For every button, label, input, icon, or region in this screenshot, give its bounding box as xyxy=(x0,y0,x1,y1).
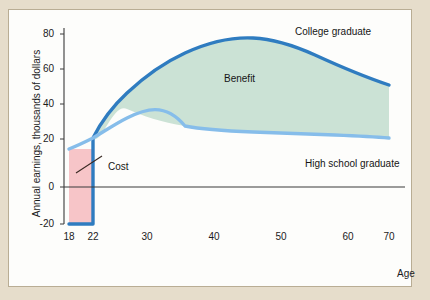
x-tick-label-70: 70 xyxy=(377,231,401,242)
x-tick-label-40: 40 xyxy=(202,231,226,242)
x-tick-label-50: 50 xyxy=(269,231,293,242)
college-graduate-label: College graduate xyxy=(295,26,371,37)
figure-frame: 80 60 40 20 0 -20 18 22 30 40 50 60 70 A… xyxy=(8,9,412,287)
y-axis-title: Annual earnings, thousands of dollars xyxy=(31,24,42,244)
highschool-graduate-label: High school graduate xyxy=(305,158,400,169)
benefit-region-fill xyxy=(93,38,389,139)
y-axis-ticks xyxy=(60,34,64,224)
chart-page: 80 60 40 20 0 -20 18 22 30 40 50 60 70 A… xyxy=(0,0,430,300)
x-axis-title: Age xyxy=(397,268,415,279)
x-tick-label-18: 18 xyxy=(57,231,81,242)
x-tick-label-30: 30 xyxy=(135,231,159,242)
x-tick-label-22: 22 xyxy=(81,231,105,242)
benefit-region-label: Benefit xyxy=(224,73,255,84)
x-tick-label-60: 60 xyxy=(336,231,360,242)
cost-region-label: Cost xyxy=(108,161,129,172)
earnings-chart-plot xyxy=(9,10,411,286)
